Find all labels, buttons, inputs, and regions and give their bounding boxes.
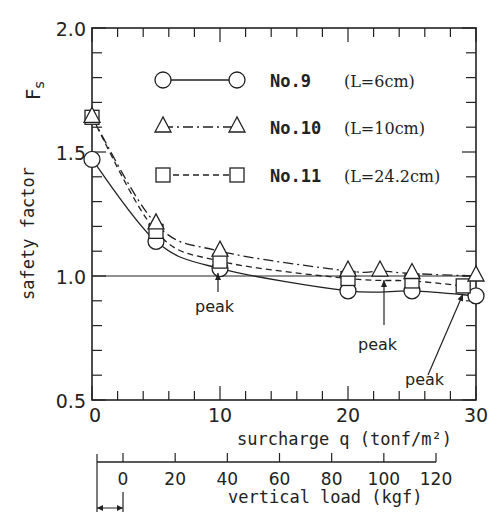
- load-tick-label: 80: [321, 469, 343, 489]
- legend-series-note: (L=24.2cm): [344, 167, 440, 186]
- triangle-marker-icon: [468, 266, 484, 281]
- x-tick-label: 10: [208, 404, 232, 426]
- square-marker-icon: [156, 168, 170, 182]
- y-axis-title: safety factor: [18, 167, 38, 300]
- safety-factor-chart: 0.51.01.52.00102030 No.9(L=6cm)No.10(L=1…: [0, 0, 495, 529]
- peak-annotations: peakpeakpeak: [195, 273, 463, 389]
- triangle-marker-icon: [229, 117, 245, 132]
- peak-annotation: peak: [195, 273, 235, 316]
- legend: No.9(L=6cm)No.10(L=10cm)No.11(L=24.2cm): [155, 71, 440, 186]
- load-tick-label: 0: [118, 469, 129, 489]
- y-axis-symbol: Fs: [21, 81, 47, 100]
- load-tick-label: 100: [368, 469, 400, 489]
- x-tick-label: 30: [464, 404, 488, 426]
- y-tick-label: 2.0: [56, 18, 86, 40]
- legend-series-note: (L=10cm): [344, 119, 425, 138]
- x-tick-label: 20: [336, 404, 360, 426]
- square-marker-icon: [230, 168, 244, 182]
- y-tick-label: 0.5: [56, 390, 86, 412]
- triangle-marker-icon: [404, 264, 420, 279]
- circle-marker-icon: [155, 72, 171, 88]
- series-no11: [92, 117, 463, 286]
- triangle-marker-icon: [155, 117, 171, 132]
- y-tick-label: 1.5: [56, 142, 86, 164]
- circle-marker-icon: [84, 151, 100, 167]
- y-tick-label: 1.0: [56, 266, 86, 288]
- legend-series-name: No.9: [270, 71, 311, 91]
- x2-axis-title: vertical load (kgf): [228, 487, 422, 507]
- peak-label: peak: [195, 297, 235, 316]
- load-tick-label: 40: [217, 469, 239, 489]
- triangle-marker-icon: [148, 214, 164, 229]
- triangle-marker-icon: [372, 261, 388, 276]
- legend-entry: No.10(L=10cm): [155, 117, 425, 138]
- legend-entry: No.9(L=6cm): [155, 71, 415, 91]
- load-tick-label: 20: [164, 469, 186, 489]
- legend-entry: No.11(L=24.2cm): [156, 166, 440, 186]
- series-no10: [92, 117, 476, 276]
- load-tick-label: 120: [420, 469, 452, 489]
- peak-label: peak: [358, 335, 398, 354]
- legend-series-note: (L=6cm): [344, 72, 415, 91]
- triangle-marker-icon: [212, 241, 228, 256]
- peak-label: peak: [405, 370, 445, 389]
- legend-series-name: No.11: [270, 166, 321, 186]
- circle-marker-icon: [229, 72, 245, 88]
- load-tick-label: 60: [269, 469, 291, 489]
- legend-series-name: No.10: [270, 118, 321, 138]
- peak-annotation: peak: [405, 294, 463, 389]
- x-axis-title: surcharge q (tonf/m²): [237, 429, 452, 449]
- triangle-marker-icon: [340, 261, 356, 276]
- x-tick-label: 0: [89, 404, 101, 426]
